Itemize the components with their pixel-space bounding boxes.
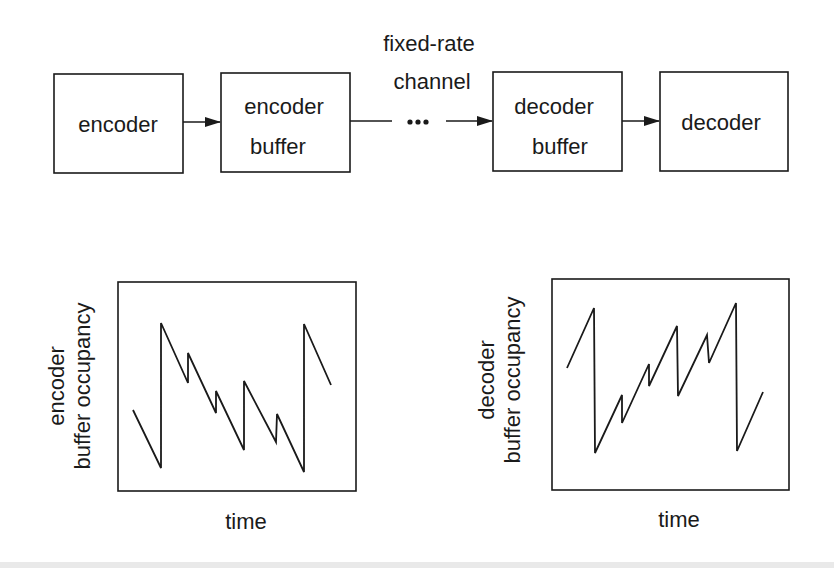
decoder-block: decoder xyxy=(660,72,788,171)
encoder-label: encoder xyxy=(78,112,158,137)
page-edge xyxy=(0,562,834,568)
encoder-occupancy-trace xyxy=(133,323,331,472)
decoder-ylabel-line2: buffer occupancy xyxy=(500,296,525,463)
decoder-occupancy-chart: decoder buffer occupancy time xyxy=(474,279,789,532)
encoder-plot-frame xyxy=(118,282,356,491)
decoder-buffer-label-line1: decoder xyxy=(514,94,594,119)
fixed-rate-channel: fixed-rate channel xyxy=(350,31,492,125)
encoder-occupancy-chart: encoder buffer occupancy time xyxy=(44,282,356,534)
encoder-buffer-label-line2: buffer xyxy=(250,134,306,159)
decoder-plot-frame xyxy=(552,279,789,490)
encoder-block: encoder xyxy=(54,74,183,173)
encoder-xlabel: time xyxy=(225,509,267,534)
decoder-xlabel: time xyxy=(658,507,700,532)
encoder-buffer-block: encoder buffer xyxy=(221,73,350,172)
decoder-buffer-block: decoder buffer xyxy=(493,72,622,171)
decoder-occupancy-trace xyxy=(567,303,763,453)
decoder-buffer-label-line2: buffer xyxy=(532,134,588,159)
buffer-diagram-canvas: encoder encoder buffer fixed-rate channe… xyxy=(0,0,834,568)
decoder-label: decoder xyxy=(681,110,761,135)
channel-label-line1: fixed-rate xyxy=(383,31,475,56)
decoder-ylabel-line1: decoder xyxy=(474,340,499,420)
encoder-buffer-label-line1: encoder xyxy=(244,94,324,119)
encoder-ylabel-line2: buffer occupancy xyxy=(70,302,95,469)
encoder-ylabel-line1: encoder xyxy=(44,346,69,426)
ellipsis-icon xyxy=(407,119,428,124)
channel-label-line2: channel xyxy=(393,69,470,94)
